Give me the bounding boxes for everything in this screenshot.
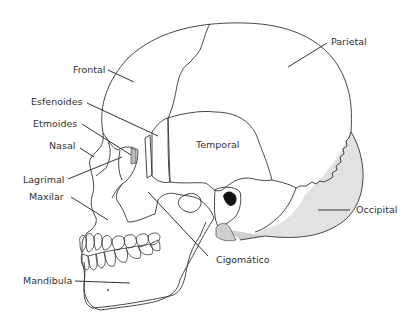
label-esfenoides: Esfenoides <box>31 97 82 107</box>
label-nasal: Nasal <box>49 141 75 151</box>
ethmoid-shape <box>131 148 136 164</box>
label-etmoides: Etmoides <box>33 119 77 129</box>
ear-canal <box>223 192 237 207</box>
skull-diagram: Frontal Parietal Esfenoides Etmoides Nas… <box>0 0 418 330</box>
leader-esfenoides <box>87 103 158 136</box>
sphenoid-inner <box>145 135 152 178</box>
leader-maxilar <box>71 197 108 220</box>
maxilla-outline <box>82 216 214 310</box>
label-maxilar: Maxilar <box>29 192 64 202</box>
label-lagrimal: Lagrimal <box>23 175 64 185</box>
nasal-bone <box>89 133 103 216</box>
label-temporal: Temporal <box>196 140 240 150</box>
label-parietal: Parietal <box>331 37 367 47</box>
label-mandibula: Mandibula <box>23 276 72 286</box>
leader-parietal <box>288 43 327 67</box>
coronal-suture <box>168 24 210 118</box>
temporal-bone-outline <box>168 111 272 190</box>
leader-etmoides <box>82 124 131 155</box>
teeth <box>80 233 160 270</box>
leader-cigomatico <box>148 192 208 256</box>
mental-foramen <box>107 289 109 291</box>
leader-lagrimal <box>68 157 122 179</box>
zygomatic-outline <box>116 184 214 222</box>
label-occipital: Occipital <box>356 205 397 215</box>
sphenoid-outline <box>152 118 170 183</box>
leader-mandibula <box>75 281 130 283</box>
lacrimal-edge <box>119 150 122 180</box>
nasal-edge <box>96 142 110 176</box>
label-frontal: Frontal <box>73 65 106 75</box>
label-cigomatico: Cigomático <box>216 255 270 265</box>
leader-nasal <box>80 148 94 157</box>
